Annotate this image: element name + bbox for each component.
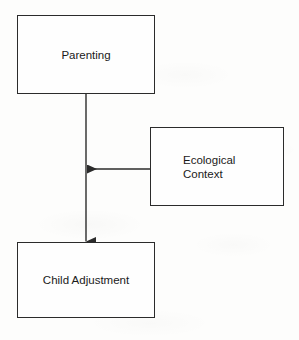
diagram-canvas: Parenting Ecological Context Child Adjus… — [0, 0, 299, 340]
node-parenting-label: Parenting — [18, 48, 154, 62]
node-ecological-context[interactable]: Ecological Context — [150, 127, 284, 206]
node-ecological-context-label: Ecological Context — [151, 153, 235, 181]
node-child-adjustment-label: Child Adjustment — [18, 273, 154, 287]
node-child-adjustment[interactable]: Child Adjustment — [17, 242, 155, 318]
node-parenting[interactable]: Parenting — [17, 15, 155, 94]
